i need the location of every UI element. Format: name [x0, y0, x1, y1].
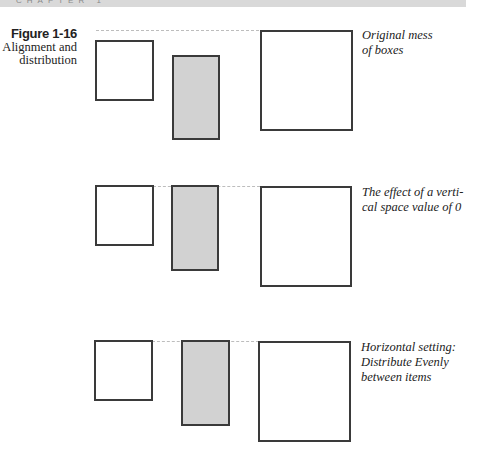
caption-line: cal space value of 0 — [362, 200, 463, 215]
large-square-box — [258, 341, 351, 442]
shaded-rectangle-box — [171, 185, 219, 271]
shaded-rectangle-box — [181, 340, 230, 426]
caption-line: Horizontal setting: — [361, 340, 456, 355]
figure-number: Figure 1-16 — [0, 27, 77, 41]
caption-line: Original mess — [362, 28, 433, 43]
small-square-box — [94, 340, 153, 401]
large-square-box — [260, 30, 353, 131]
alignment-guide-dashed-line — [96, 30, 259, 31]
large-square-box — [260, 186, 352, 287]
figure-caption: Figure 1-16 Alignment and distribution — [0, 27, 77, 67]
small-square-box — [95, 185, 154, 246]
caption-line: The effect of a verti- — [362, 185, 463, 200]
caption-line: of boxes — [362, 43, 433, 58]
small-square-box — [95, 40, 154, 101]
shaded-rectangle-box — [172, 55, 220, 140]
example-caption: The effect of a verti- cal space value o… — [362, 185, 463, 215]
example-caption: Original mess of boxes — [362, 28, 433, 58]
chapter-header-bar: CHAPTER 1 — [0, 0, 466, 7]
caption-line: Distribute Evenly — [361, 355, 456, 370]
figure-description-line2: distribution — [0, 54, 77, 67]
example-caption: Horizontal setting: Distribute Evenly be… — [361, 340, 456, 385]
chapter-label: CHAPTER 1 — [16, 0, 106, 6]
caption-line: between items — [361, 370, 456, 385]
